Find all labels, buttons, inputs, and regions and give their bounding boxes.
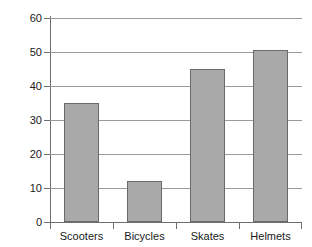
- y-axis-tick-label-0: 0: [2, 217, 42, 228]
- bar-scooters: [64, 103, 99, 222]
- y-axis-tick-label-40: 40: [2, 81, 42, 92]
- bar-bicycles: [127, 181, 162, 222]
- y-axis-labels: 60 50 40 30 20 10 0: [0, 0, 42, 247]
- gridline-60: [50, 18, 302, 19]
- x-axis-tick-4: [301, 222, 302, 229]
- y-axis-tick-label-20: 20: [2, 149, 42, 160]
- x-axis-tick-2: [176, 222, 177, 229]
- bar-helmets: [253, 50, 288, 222]
- y-axis-tick-label-50: 50: [2, 47, 42, 58]
- x-axis-label-helmets: Helmets: [239, 230, 302, 243]
- x-axis-tick-3: [239, 222, 240, 229]
- x-axis-label-scooters: Scooters: [50, 230, 113, 243]
- bar-chart: 60 50 40 30 20 10 0 Scooters Bicycles S: [0, 0, 312, 247]
- x-axis-tick-1: [113, 222, 114, 229]
- x-axis-tick-0: [50, 222, 51, 229]
- plot-area: [50, 18, 302, 222]
- bar-skates: [190, 69, 225, 222]
- y-axis-tick-label-60: 60: [2, 13, 42, 24]
- y-axis-tick-label-30: 30: [2, 115, 42, 126]
- x-axis-label-bicycles: Bicycles: [113, 230, 176, 243]
- y-axis-tick-label-10: 10: [2, 183, 42, 194]
- x-axis-label-skates: Skates: [176, 230, 239, 243]
